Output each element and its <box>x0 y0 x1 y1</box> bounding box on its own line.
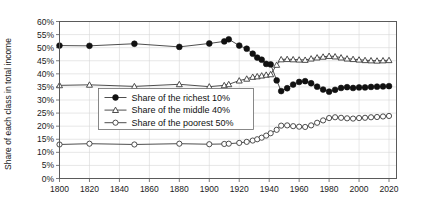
y-tick-label: 55% <box>37 30 54 40</box>
y-tick-label: 25% <box>37 108 54 118</box>
data-point <box>362 85 368 91</box>
data-point <box>338 115 343 120</box>
data-point <box>244 46 250 52</box>
legend-marker-filled-circle <box>113 95 119 101</box>
data-point <box>176 44 182 50</box>
y-tick-label: 40% <box>37 69 54 79</box>
data-point <box>268 131 273 136</box>
data-point <box>244 139 249 144</box>
data-point <box>368 115 373 120</box>
data-point <box>356 115 361 120</box>
data-point <box>338 85 344 91</box>
data-point <box>296 79 302 85</box>
data-point <box>344 116 349 121</box>
y-tick-label: 35% <box>37 82 54 92</box>
y-tick-label: 30% <box>37 95 54 105</box>
y-tick-label: 0% <box>42 174 55 184</box>
x-tick-label: 2020 <box>380 184 399 194</box>
data-point <box>327 115 332 120</box>
data-point <box>350 85 356 91</box>
data-point <box>332 87 338 93</box>
data-point <box>87 43 93 49</box>
x-tick-label: 1960 <box>290 184 309 194</box>
data-point <box>132 142 137 147</box>
x-tick-label: 1940 <box>260 184 279 194</box>
data-point <box>131 41 137 47</box>
x-tick-label: 1980 <box>320 184 339 194</box>
x-tick-label: 1860 <box>140 184 159 194</box>
chart-legend: Share of the richest 10%Share of the mid… <box>99 89 254 130</box>
y-tick-label: 15% <box>37 134 54 144</box>
y-tick-label: 60% <box>37 17 54 27</box>
data-point <box>279 123 284 128</box>
data-point <box>177 141 182 146</box>
x-tick-label: 1920 <box>230 184 249 194</box>
data-point <box>315 120 320 125</box>
data-point <box>350 116 355 121</box>
legend-marker-open-circle <box>113 120 118 125</box>
data-point <box>236 43 242 49</box>
y-tick-label: 10% <box>37 147 54 157</box>
x-tick-label: 2000 <box>350 184 369 194</box>
legend-label: Share of the poorest 50% <box>132 118 234 128</box>
data-point <box>309 123 314 128</box>
data-point <box>303 124 308 129</box>
data-point <box>302 78 308 84</box>
data-point <box>314 84 320 90</box>
data-point <box>291 124 296 129</box>
data-point <box>237 140 242 145</box>
data-point <box>380 114 385 119</box>
data-point <box>226 141 231 146</box>
legend-label: Share of the middle 40% <box>132 105 231 115</box>
y-tick-label: 50% <box>37 43 54 53</box>
data-point <box>274 77 280 83</box>
data-point <box>268 62 274 68</box>
data-point <box>285 123 290 128</box>
y-axis-title: Share of each class in total income <box>3 38 13 170</box>
data-point <box>274 127 279 132</box>
data-point <box>374 84 380 90</box>
y-tick-label: 45% <box>37 56 54 66</box>
data-point <box>386 113 391 118</box>
x-tick-label: 1800 <box>50 184 69 194</box>
data-point <box>207 142 212 147</box>
y-tick-label: 20% <box>37 121 54 131</box>
data-point <box>332 115 337 120</box>
data-point <box>344 84 350 90</box>
income-share-chart: 1800182018401860188019001920194019601980… <box>0 0 423 208</box>
data-point <box>226 36 232 42</box>
data-point <box>278 88 284 94</box>
x-tick-label: 1820 <box>80 184 99 194</box>
data-point <box>206 41 212 47</box>
x-tick-label: 1880 <box>170 184 189 194</box>
data-point <box>284 85 290 91</box>
x-tick-label: 1900 <box>200 184 219 194</box>
data-point <box>380 83 386 89</box>
data-point <box>290 82 296 88</box>
data-point <box>362 115 367 120</box>
data-point <box>308 80 314 86</box>
data-point <box>368 84 374 90</box>
legend-label: Share of the richest 10% <box>132 93 231 103</box>
data-point <box>259 57 265 63</box>
data-point <box>386 83 392 89</box>
data-point <box>326 89 332 95</box>
x-tick-label: 1840 <box>110 184 129 194</box>
data-point <box>356 85 362 91</box>
data-point <box>374 114 379 119</box>
data-point <box>297 124 302 129</box>
data-point <box>321 118 326 123</box>
chart-canvas: 1800182018401860188019001920194019601980… <box>0 0 423 208</box>
data-point <box>320 87 326 93</box>
y-tick-label: 5% <box>42 160 55 170</box>
data-point <box>87 141 92 146</box>
